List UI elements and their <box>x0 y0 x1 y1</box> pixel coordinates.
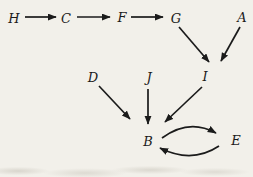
node-E-label: E <box>230 133 241 148</box>
node-G-label: G <box>171 11 181 26</box>
node-J-label: J <box>143 70 152 85</box>
edge-D-B-arrow <box>99 86 130 119</box>
nodes-layer: HCFGADJIBE <box>7 10 246 149</box>
node-D-label: D <box>87 70 99 85</box>
edge-B-E-arrow <box>162 127 216 138</box>
edge-E-B-arrow <box>160 146 219 156</box>
graph-diagram: HCFGADJIBE <box>0 0 253 177</box>
edge-A-I-arrow <box>221 27 240 61</box>
node-A-label: A <box>236 10 246 25</box>
graph-svg: HCFGADJIBE <box>0 0 253 177</box>
edge-G-I-arrow <box>179 27 209 62</box>
node-H-label: H <box>7 11 20 26</box>
node-C-label: C <box>61 11 71 26</box>
node-I-label: I <box>201 69 208 84</box>
node-F-label: F <box>116 10 127 25</box>
edges-layer <box>25 17 240 156</box>
node-B-label: B <box>142 134 153 149</box>
edge-I-B-arrow <box>165 87 202 122</box>
